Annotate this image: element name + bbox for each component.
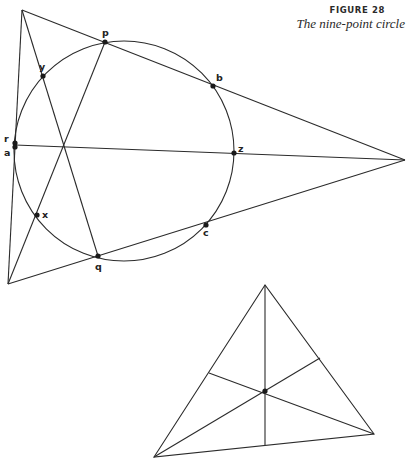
side-left-right xyxy=(8,160,405,284)
small-triangle xyxy=(154,285,374,457)
point-q xyxy=(95,253,100,258)
point-b xyxy=(210,83,215,88)
point-z xyxy=(231,150,236,155)
point-label-q: q xyxy=(95,261,102,272)
small-altitude-right xyxy=(209,373,374,434)
main-diagram xyxy=(8,10,405,284)
point-label-p: p xyxy=(102,27,109,38)
point-a xyxy=(12,144,17,149)
small-triangle-diagram xyxy=(154,285,374,457)
point-p xyxy=(102,39,107,44)
point-label-z: z xyxy=(238,143,244,154)
figure-title: The nine-point circle xyxy=(296,16,405,32)
small-center-point xyxy=(262,388,267,393)
figure-caption: FIGURE 28 The nine-point circle xyxy=(296,4,405,32)
altitude-from-left xyxy=(8,42,105,284)
point-y xyxy=(40,73,45,78)
point-x xyxy=(34,212,39,217)
point-label-x: x xyxy=(42,209,48,220)
point-label-y: y xyxy=(39,61,46,72)
altitude-from-top xyxy=(22,10,98,256)
point-label-b: b xyxy=(216,72,223,83)
point-label-c: c xyxy=(203,227,209,238)
nine-point-circle xyxy=(14,41,234,261)
point-label-a: a xyxy=(4,147,10,158)
point-label-r: r xyxy=(4,133,9,144)
nine-point-circle-figure: pybrazxcq xyxy=(0,0,411,473)
figure-number: FIGURE 28 xyxy=(296,4,385,16)
altitude-from-right xyxy=(15,145,405,160)
